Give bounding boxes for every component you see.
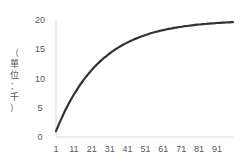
y-tick-label: 20 [35,15,45,25]
x-tick-label: 51 [140,144,150,154]
x-tick-label: 91 [212,144,222,154]
x-tick-label: 21 [87,144,97,154]
x-tick-label: 31 [105,144,115,154]
line-chart: 051015201112131415161718191 [0,0,247,167]
y-tick-label: 0 [37,132,42,142]
x-tick-label: 41 [123,144,133,154]
y-tick-label: 5 [37,103,42,113]
x-tick-label: 71 [176,144,186,154]
x-tick-label: 61 [158,144,168,154]
x-tick-label: 81 [194,144,204,154]
y-tick-label: 15 [35,44,45,54]
x-tick-label: 11 [69,144,78,154]
x-tick-label: 1 [53,144,58,154]
data-line [56,22,233,131]
y-tick-label: 10 [35,74,45,84]
